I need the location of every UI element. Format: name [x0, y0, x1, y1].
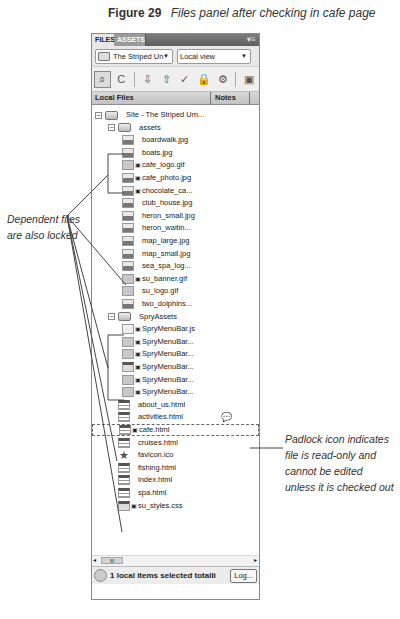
chevron-down-icon: ▼ [163, 53, 169, 59]
synchronize-icon: ⚙ [218, 73, 228, 86]
tree-file[interactable]: heron_small.jpg [92, 210, 195, 222]
css-file-icon [122, 362, 134, 372]
tree-file[interactable]: boats.jpg [92, 147, 172, 159]
img-file-icon [122, 211, 134, 221]
tree-file[interactable]: map_large.jpg [92, 235, 190, 247]
file-name: cafe_logo.gif [142, 159, 185, 171]
tree-file[interactable]: ▣cafe.html [92, 424, 259, 436]
tree-file[interactable]: ▣SpryMenuBar... [92, 348, 194, 360]
file-name: cafe_photo.jpg [142, 172, 191, 184]
connect-button[interactable]: ⌕ [94, 71, 111, 88]
annotation-padlock: Padlock icon indicates file is read-only… [285, 431, 395, 495]
html-file-icon [118, 488, 130, 498]
tree-file[interactable]: ▣SpryMenuBar... [92, 374, 194, 386]
collapse-icon[interactable]: − [108, 313, 115, 320]
img-file-icon [122, 173, 134, 183]
padlock-icon: ▣ [132, 424, 138, 436]
tree-file[interactable]: ▣SpryMenuBar... [92, 386, 194, 398]
tree-file[interactable]: map_small.jpg [92, 248, 190, 260]
tab-files[interactable]: FILES [92, 34, 114, 46]
panel-menu-icon[interactable]: ▾≡ [247, 35, 256, 44]
tree-file[interactable]: activities.html💬 [92, 411, 183, 423]
tree-file[interactable]: ▣chocolate_ca... [92, 185, 192, 197]
chevron-down-icon: ▼ [241, 53, 247, 59]
view-select[interactable]: Local view ▼ [177, 49, 251, 64]
check-in-button[interactable]: 🔒 [195, 71, 212, 88]
site-view-row: The Striped Un ▼ Local view ▼ [92, 46, 259, 67]
column-notes[interactable]: Notes [211, 92, 250, 104]
padlock-icon: ▣ [135, 336, 141, 348]
scroll-right-icon[interactable]: ▸ [254, 556, 257, 563]
file-name: su_logo.gif [142, 285, 178, 297]
tree-file[interactable]: ▣cafe_photo.jpg [92, 172, 191, 184]
log-button[interactable]: Log... [230, 569, 257, 583]
gif-file-icon [122, 286, 134, 296]
tree-file[interactable]: ▣cafe_logo.gif [92, 159, 185, 171]
column-local-files[interactable]: Local Files [92, 92, 211, 104]
put-files-icon: ⇧ [162, 73, 171, 86]
expand-button[interactable]: ▣ [240, 71, 257, 88]
tree-file[interactable]: club_house.jpg [92, 197, 192, 209]
tree-file[interactable]: ★favicon.ico [92, 449, 173, 461]
file-name: Site - The Striped Um... [126, 109, 204, 121]
file-name: fishing.html [138, 462, 176, 474]
padlock-icon: ▣ [135, 273, 141, 285]
view-select-value: Local view [180, 52, 215, 61]
synchronize-button[interactable]: ⚙ [214, 71, 231, 88]
html-file-icon [118, 412, 130, 422]
column-header: Local Files Notes [92, 92, 259, 105]
annotation-dependent-files: Dependent files are also locked [7, 211, 87, 243]
file-name: SpryMenuBar.js [142, 323, 195, 335]
refresh-button[interactable]: C [113, 71, 130, 88]
tree-file[interactable]: ▣SpryMenuBar... [92, 336, 194, 348]
img-file-icon [122, 249, 134, 259]
check-out-button[interactable]: ✓ [177, 71, 194, 88]
tab-assets[interactable]: ASSETS [114, 34, 146, 46]
tree-folder[interactable]: −SpryAssets [92, 311, 177, 323]
tree-file[interactable]: about_us.html [92, 399, 185, 411]
toolbar-separator [235, 72, 236, 87]
get-files-button[interactable]: ⇩ [139, 71, 156, 88]
tree-file[interactable]: fishing.html [92, 462, 176, 474]
tree-file[interactable]: ▣su_styles.css [92, 500, 183, 512]
tree-file[interactable]: ▣SpryMenuBar.js [92, 323, 195, 335]
tree-file[interactable]: ▣SpryMenuBar... [92, 361, 194, 373]
horizontal-scrollbar[interactable]: ◂ III ▸ [92, 555, 259, 566]
folder-icon [118, 123, 131, 132]
tree-file[interactable]: boardwalk.jpg [92, 134, 188, 146]
status-bar: 1 local items selected totalli Log... [92, 566, 259, 584]
tree-file[interactable]: cruises.html [92, 437, 178, 449]
put-files-button[interactable]: ⇧ [158, 71, 175, 88]
tree-folder[interactable]: −Site - The Striped Um... [92, 109, 204, 121]
tree-file[interactable]: ▣su_banner.gif [92, 273, 187, 285]
tree-file[interactable]: index.html [92, 474, 172, 486]
site-select[interactable]: The Striped Un ▼ [95, 49, 173, 64]
padlock-icon: ▣ [135, 185, 141, 197]
file-tree: −Site - The Striped Um...−assetsboardwal… [92, 105, 259, 540]
figure-caption: Figure 29 Files panel after checking in … [108, 6, 376, 20]
status-icon [94, 569, 107, 582]
file-name: favicon.ico [138, 449, 173, 461]
design-note-icon[interactable]: 💬 [221, 411, 232, 423]
collapse-icon[interactable]: − [108, 124, 115, 131]
scrollbar-thumb[interactable]: III [101, 557, 123, 564]
tree-file[interactable]: two_dolphins... [92, 298, 192, 310]
toolbar-separator [134, 72, 135, 87]
tree-file[interactable]: sea_spa_log... [92, 260, 191, 272]
img-file-icon [122, 223, 134, 233]
img-file-icon [122, 236, 134, 246]
file-name: heron_waitin... [142, 222, 191, 234]
file-name: SpryMenuBar... [142, 336, 194, 348]
file-name: activities.html [138, 411, 183, 423]
tree-folder[interactable]: −assets [92, 122, 161, 134]
scroll-left-icon[interactable]: ◂ [93, 556, 96, 563]
file-name: su_banner.gif [142, 273, 187, 285]
tree-file[interactable]: spa.html [92, 487, 166, 499]
padlock-icon: ▣ [131, 500, 137, 512]
collapse-icon[interactable]: − [95, 112, 102, 119]
get-files-icon: ⇩ [143, 73, 152, 86]
file-name: SpryAssets [139, 311, 177, 323]
tree-file[interactable]: su_logo.gif [92, 285, 178, 297]
tree-file[interactable]: heron_waitin... [92, 222, 191, 234]
file-name: map_small.jpg [142, 248, 190, 260]
